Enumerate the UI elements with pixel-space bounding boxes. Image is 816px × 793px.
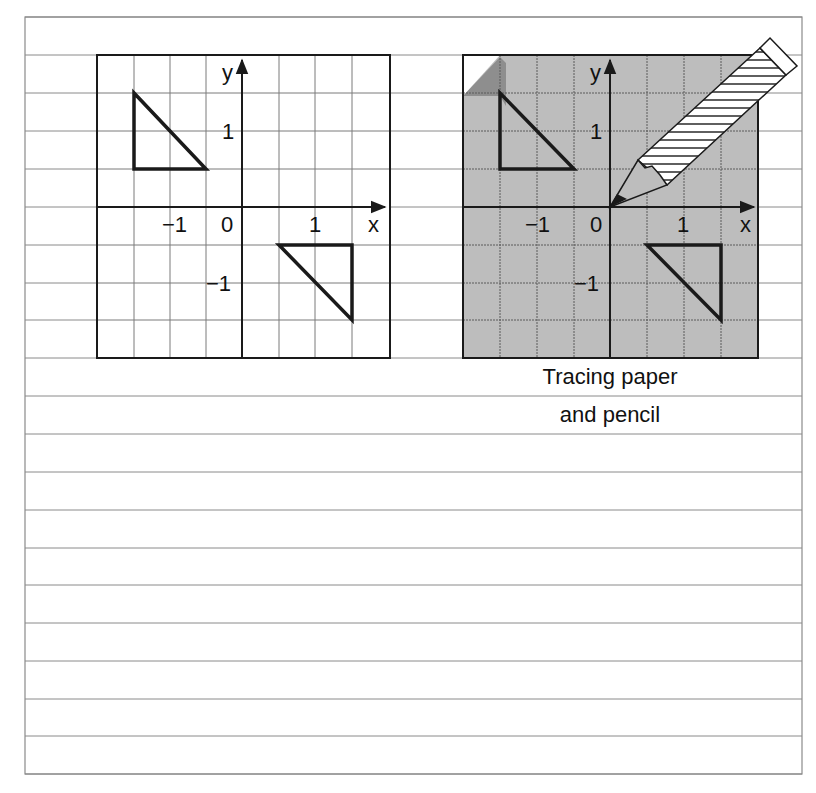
rotation-diagram: y x 1 −1 −1 0 1 y [0,0,816,793]
tick-label-x-1: 1 [309,212,321,237]
tick-label-y-minus1: −1 [574,271,599,296]
origin-label: 0 [221,212,233,237]
tick-label-y-1: 1 [222,119,234,144]
tick-label-x-1: 1 [677,212,689,237]
caption-line-1: Tracing paper [480,364,740,390]
y-label: y [222,60,233,85]
tick-label-y-minus1: −1 [206,271,231,296]
panel-tracing-start: y x 1 −1 −1 0 1 [463,38,797,358]
x-label: x [740,212,751,237]
caption: Tracing paper and pencil [480,364,740,428]
panel-original: y x 1 −1 −1 0 1 [97,55,390,358]
caption-line-2: and pencil [480,402,740,428]
x-label: x [368,212,379,237]
tick-label-y-1: 1 [590,119,602,144]
tick-label-x-minus1: −1 [162,212,187,237]
origin-label: 0 [590,212,602,237]
tick-label-x-minus1: −1 [525,212,550,237]
y-label: y [590,60,601,85]
